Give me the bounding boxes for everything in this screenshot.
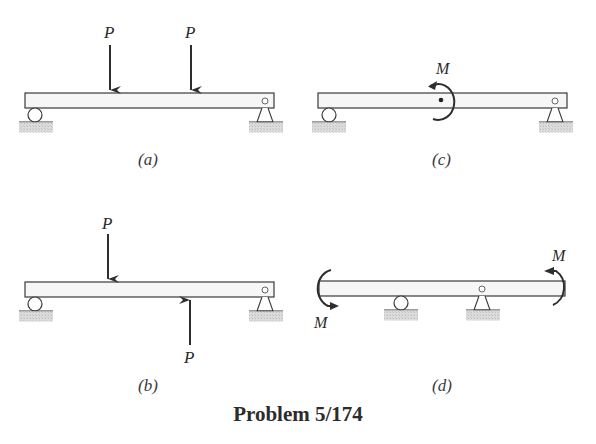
- roller-support-icon: [19, 297, 53, 322]
- force-label: P: [103, 23, 114, 42]
- panel-caption: (c): [432, 150, 451, 169]
- roller-support-icon: [384, 296, 418, 321]
- pin-support-icon: [249, 108, 283, 133]
- beam: [319, 281, 565, 296]
- roller-support-icon: [19, 108, 53, 133]
- panel-c: M (c): [312, 60, 573, 169]
- roller-support-icon: [312, 108, 346, 133]
- force-label: P: [184, 23, 195, 42]
- pin-hole-icon: [552, 98, 558, 104]
- pin-support-icon: [539, 108, 573, 133]
- pin-hole-icon: [262, 98, 268, 104]
- panel-caption: (d): [432, 376, 452, 395]
- pin-support-icon: [466, 296, 500, 321]
- panel-d: M M (d): [313, 247, 567, 395]
- force-label: P: [183, 348, 194, 367]
- couple-label: M: [313, 314, 329, 331]
- beam: [25, 93, 274, 108]
- panel-caption: (a): [138, 150, 158, 169]
- couple-label: M: [435, 60, 451, 77]
- panel-caption: (b): [138, 376, 158, 395]
- beam-diagram-figure: P P (a) M (c): [0, 0, 596, 444]
- figure-title: Problem 5/174: [0, 402, 596, 427]
- couple-label: M: [551, 247, 567, 264]
- beam: [25, 282, 274, 297]
- pin-hole-icon: [479, 286, 485, 292]
- panel-b: P P (b): [19, 214, 283, 395]
- pin-hole-icon: [262, 287, 268, 293]
- couple-center-dot: [439, 98, 444, 103]
- panel-a: P P (a): [19, 23, 283, 169]
- force-label: P: [101, 214, 112, 233]
- pin-support-icon: [249, 297, 283, 322]
